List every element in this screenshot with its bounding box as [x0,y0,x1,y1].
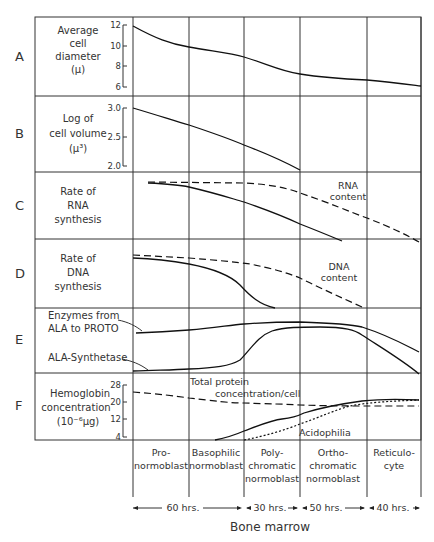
ylabel-line: concentration [41,402,110,413]
ylabel-line: Hemoglobin [50,388,110,399]
stage-label: Pro- [152,447,171,458]
panel-e: Enzymes from ALA to PROTO ALA-Synthetase [48,310,419,374]
stage-label: Ortho- [318,447,349,458]
stage-labels: Pro- normoblast Basophilic normoblast Po… [134,447,415,484]
duration-label: 30 hrs. [253,502,286,513]
curve-dna-synthesis [133,258,275,308]
y-axis-a [123,25,127,87]
y-tick: 4 [116,432,121,442]
duration-label: 50 hrs. [309,502,342,513]
row-label-f: F [15,398,22,413]
row-label-c: C [15,198,24,213]
y-axis-f [123,385,127,437]
erythropoiesis-chart: A B C D E F Average cell diameter (μ) 12… [0,0,434,542]
ylabel-line: (μ) [71,64,85,75]
ylabel-line: diameter [55,51,101,62]
ylabel-line: (μ³) [69,143,87,154]
stage-label: chromatic [248,460,295,471]
ylabel-line: cell volume [49,128,106,139]
annotation-total-protein: concentration/cell [215,388,300,399]
ylabel-line: Log of [63,113,94,124]
y-tick: 28 [110,380,121,390]
x-axis-title: Bone marrow [230,520,310,534]
stage-label: Reticulo- [373,447,415,458]
ylabel-line: Rate of [60,186,96,197]
stage-label: normoblast [189,460,243,471]
annotation-enzymes: ALA to PROTO [48,323,119,334]
y-tick: 6 [116,82,121,92]
y-tick: 3.0 [107,103,121,113]
ylabel-line: DNA [67,267,89,278]
panel-a: Average cell diameter (μ) 12 10 8 6 [55,20,421,92]
panel-f: Hemoglobin concentration (10⁻⁶μg) 28 20 … [41,376,419,442]
curve-ala-synthetase [133,327,419,374]
stage-label: normoblast [245,473,299,484]
annotation-acidophilia: Acidophilia [299,427,351,438]
ylabel-line: RNA [67,200,88,211]
y-axis-b [123,108,127,166]
y-tick: 10 [110,41,121,51]
row-label-d: D [15,266,25,281]
panel-d: Rate of DNA synthesis DNA content [54,253,362,308]
ylabel-line: synthesis [54,281,101,292]
row-label-e: E [15,332,23,347]
ylabel-line: Rate of [60,253,96,264]
annotation-rna-content: content [330,191,367,202]
ylabel-line: (10⁻⁶μg) [57,416,100,427]
ylabel-line: cell [69,38,86,49]
duration-label: 40 hrs. [376,502,409,513]
ylabel-line: synthesis [54,214,101,225]
ylabel-line: Average [57,25,98,36]
curve-cell-volume [133,108,300,170]
y-tick: 2.0 [107,161,121,171]
annotation-rna-content: RNA [338,180,359,191]
curve-enzymes-ala-to-proto [136,322,419,352]
duration-arrows: 60 hrs. 30 hrs. 50 hrs. 40 hrs. [133,502,420,513]
panel-b: Log of cell volume (μ³) 3.0 2.5 2.0 [49,103,300,171]
y-tick: 12 [110,414,121,424]
stage-label: Poly- [261,447,284,458]
y-tick: 2.5 [107,132,121,142]
y-tick: 12 [110,20,121,30]
duration-label: 60 hrs. [166,502,199,513]
row-label-b: B [15,126,24,141]
stage-label: normoblast [306,473,360,484]
stage-label: cyte [384,460,405,471]
stage-label: normoblast [134,460,188,471]
annotation-enzymes: Enzymes from [48,310,119,321]
annotation-ala-synthetase: ALA-Synthetase [48,352,127,363]
stage-label: Basophilic [192,447,240,458]
stage-label: chromatic [309,460,356,471]
annotation-dna-content: DNA [329,261,350,272]
y-tick: 8 [116,61,121,71]
panel-c: Rate of RNA synthesis RNA content [54,180,419,242]
curve-rna-synthesis [148,183,342,241]
y-tick: 20 [110,397,121,407]
annotation-total-protein: Total protein [189,376,249,387]
annotation-dna-content: content [321,272,358,283]
curve-cell-diameter [133,26,421,86]
leader-arrow-enzymes [118,320,142,331]
row-label-a: A [15,49,24,64]
